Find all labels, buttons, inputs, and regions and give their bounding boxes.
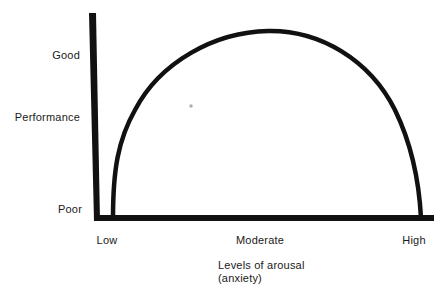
x-tick-low: Low — [97, 234, 118, 247]
x-axis-title-line2: (anxiety) — [218, 272, 262, 285]
y-tick-good: Good — [0, 49, 80, 62]
x-tick-high: High — [402, 234, 425, 247]
y-axis-title: Performance — [0, 111, 80, 124]
stray-dot — [189, 104, 193, 108]
x-axis-line — [94, 215, 434, 221]
inverted-u-curve — [113, 31, 421, 218]
y-tick-poor: Poor — [0, 203, 82, 216]
x-tick-moderate: Moderate — [236, 234, 284, 247]
x-axis-title-line1: Levels of arousal — [218, 259, 305, 272]
y-axis-line — [89, 13, 100, 221]
chart-canvas — [0, 0, 448, 296]
